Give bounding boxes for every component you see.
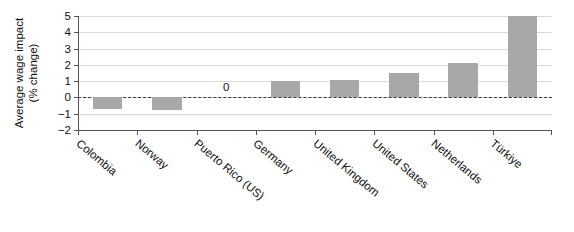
y-tick-label: 0 [65,91,71,103]
x-category-label: Norway [133,137,171,171]
y-axis-title-line-2: (% change) [26,44,40,103]
x-tick-mark [137,130,138,135]
bar [152,97,182,109]
gridline [78,114,552,115]
x-tick-mark [315,130,316,135]
x-axis-category-labels: ColombiaNorwayPuerto Rico (US)GermanyUni… [78,137,552,232]
y-tick-mark [74,81,79,82]
x-category-label: United States [370,137,431,191]
y-tick-mark [74,97,79,98]
y-tick-label: 1 [65,75,71,87]
y-tick-mark [74,65,79,66]
y-tick-label: −1 [58,108,71,120]
y-axis-title-line-1: Average wage impact [12,18,26,128]
y-tick-label: −2 [58,124,71,136]
bar [93,97,123,108]
gridline [78,32,552,33]
y-axis-title: Average wage impact (% change) [0,0,46,145]
bar [271,81,301,97]
y-tick-mark [74,16,79,17]
y-tick-label: 3 [65,43,71,55]
gridline [78,16,552,17]
plot-area: 0 [78,16,552,130]
x-tick-mark [493,130,494,135]
x-axis-ticks [78,130,552,136]
gridline [78,49,552,50]
x-tick-mark [434,130,435,135]
bar [330,80,360,98]
x-tick-mark [197,130,198,135]
y-tick-mark [74,114,79,115]
bar [448,63,478,97]
x-tick-mark [78,130,79,135]
y-tick-mark [74,49,79,50]
bar-chart-figure: Average wage impact (% change) 0 543210−… [0,0,574,232]
zero-reference-line [78,97,552,98]
x-category-label: Türkiye [489,137,526,170]
x-category-label: Colombia [74,137,119,177]
y-tick-label: 4 [65,26,71,38]
bar-value-label: 0 [223,81,229,93]
bar [389,73,419,97]
x-tick-mark [551,130,552,135]
y-tick-label: 2 [65,59,71,71]
y-axis-ticks: 543210−1−2 [78,16,79,130]
x-tick-mark [374,130,375,135]
bar [508,16,538,97]
y-tick-mark [74,32,79,33]
x-category-label: Netherlands [429,137,484,186]
x-tick-mark [256,130,257,135]
gridline [78,81,552,82]
x-category-label: Germany [252,137,296,177]
y-tick-label: 5 [65,10,71,22]
gridline [78,65,552,66]
